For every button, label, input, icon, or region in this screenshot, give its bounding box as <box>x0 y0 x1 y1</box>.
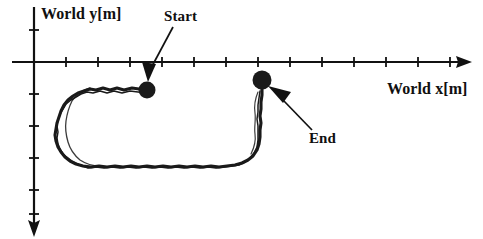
end-arrowhead-icon <box>268 86 291 103</box>
start-arrowhead-icon <box>142 62 156 82</box>
trajectory-figure <box>0 0 483 239</box>
start-annotation-label: Start <box>164 8 197 25</box>
x-axis-arrowhead <box>456 56 472 68</box>
start-marker-dot <box>139 82 156 99</box>
y-axis-label: World y[m] <box>41 5 122 23</box>
end-leader-line <box>283 100 312 130</box>
trajectory-path <box>55 88 262 168</box>
end-annotation-label: End <box>309 130 336 147</box>
x-axis-label: World x[m] <box>387 80 468 98</box>
